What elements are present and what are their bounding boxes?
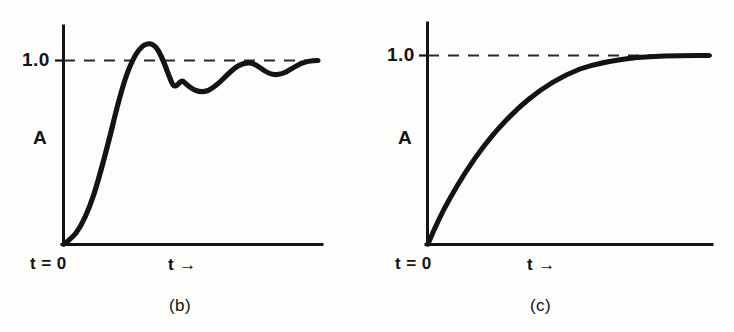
panel-caption-b: (b) xyxy=(169,297,191,314)
panel-b: 1.0 A t = 0 t → (b) xyxy=(0,0,367,332)
x-axis-label: t → xyxy=(527,256,556,273)
response-curve-c xyxy=(428,56,709,245)
panel-caption-c: (c) xyxy=(530,297,551,314)
x-axis-label: t → xyxy=(168,256,197,273)
y-tick-label-1-0: 1.0 xyxy=(387,45,415,64)
panel-b-plot xyxy=(0,0,367,332)
y-axis-label-a: A xyxy=(33,128,47,147)
x-origin-label: t = 0 xyxy=(30,255,67,272)
response-curve-b xyxy=(64,44,318,244)
panel-c-plot xyxy=(367,0,734,332)
panel-c: 1.0 A t = 0 t → (c) xyxy=(367,0,734,332)
y-tick-label-1-0: 1.0 xyxy=(22,50,50,69)
x-origin-label: t = 0 xyxy=(395,255,432,272)
figure-root: 1.0 A t = 0 t → (b) 1.0 A t = 0 t → (c) xyxy=(0,0,734,332)
y-axis-label-a: A xyxy=(398,128,412,147)
